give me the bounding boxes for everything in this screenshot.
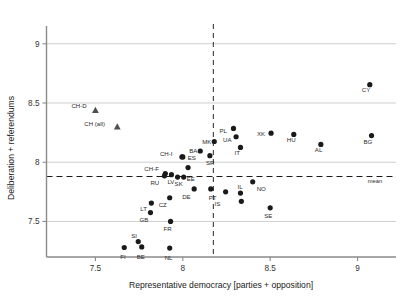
scatter-plot-figure: 7.588.597.588.59 CYBGALHUXKPLUAITMKBASRE… — [0, 0, 401, 302]
data-point-FI — [122, 245, 127, 250]
data-point-BE — [139, 244, 144, 249]
annotations-group: mean — [368, 178, 383, 184]
data-point-EE — [181, 174, 186, 179]
mean-label: mean — [368, 178, 383, 184]
point-label-BG: BG — [364, 138, 373, 145]
point-label-DE: DE — [182, 193, 190, 200]
point-label-SI: SI — [131, 232, 137, 239]
y-tick-label-7.5: 7.5 — [28, 217, 40, 226]
data-point-BA — [198, 148, 203, 153]
point-label-CH-D: CH-D — [71, 102, 87, 109]
x-axis-title: Representative democracy [parties + oppo… — [129, 280, 313, 290]
point-label-GB: GB — [139, 216, 148, 223]
data-point-CZ — [167, 195, 172, 200]
point-label-FI: FI — [120, 253, 126, 260]
point-label-SR: SR — [206, 159, 215, 166]
point-label-CY: CY — [362, 86, 370, 93]
data-point-NL — [167, 246, 172, 251]
point-label-LT: LT — [140, 205, 147, 212]
point-label-CZ: CZ — [159, 201, 167, 208]
x-tick-label-9: 9 — [355, 264, 360, 273]
data-point-UA — [234, 134, 239, 139]
point-label-IL: IL — [237, 183, 243, 190]
data-point-LT — [149, 201, 154, 206]
data-point-SI — [136, 239, 141, 244]
reference-lines-group — [47, 24, 397, 257]
data-point-SI2 — [185, 165, 190, 170]
point-label-PL: PL — [219, 127, 227, 134]
point-label-IT: IT — [234, 149, 240, 156]
y-tick-label-9: 9 — [35, 40, 40, 49]
data-point-MK — [212, 139, 217, 144]
point-label-MK: MK — [202, 138, 211, 145]
point-label-IS: IS — [215, 200, 221, 207]
data-point-DE — [192, 186, 197, 191]
point-label-NO: NO — [257, 185, 266, 192]
point-label-CH-F: CH-F — [144, 165, 159, 172]
y-tick-label-8: 8 — [35, 158, 40, 167]
point-label-SE: SE — [264, 212, 272, 219]
data-point-CH (all) — [114, 123, 121, 129]
data-point-NO — [250, 179, 255, 184]
point-label-FR: FR — [164, 225, 173, 232]
point-label-CH (all): CH (all) — [84, 120, 105, 127]
data-point-HR — [239, 199, 244, 204]
data-point-SE — [268, 205, 273, 210]
point-label-NL: NL — [165, 254, 173, 261]
data-point-FR — [168, 219, 173, 224]
point-label-UA: UA — [223, 136, 232, 143]
point-label-XK: XK — [257, 130, 265, 137]
data-point-SK — [175, 174, 180, 179]
x-tick-label-8.5: 8.5 — [264, 264, 276, 273]
data-point-PL — [231, 126, 236, 131]
data-point-IS — [223, 189, 228, 194]
data-point-SR — [207, 153, 212, 158]
data-point-IL — [238, 190, 243, 195]
data-point-CH-I — [179, 154, 184, 159]
point-labels-group: CYBGALHUXKPLUAITMKBASRESCH-ICH-FRULVSKEE… — [71, 86, 372, 261]
point-label-EE: EE — [187, 175, 195, 182]
x-tick-label-8: 8 — [181, 264, 186, 273]
data-point-PT — [208, 186, 213, 191]
point-label-SK: SK — [175, 180, 183, 187]
point-label-AL: AL — [315, 146, 323, 153]
chart-canvas: 7.588.597.588.59 CYBGALHUXKPLUAITMKBASRE… — [0, 0, 401, 302]
data-point-XK — [268, 131, 273, 136]
x-tick-label-7.5: 7.5 — [90, 264, 102, 273]
y-tick-label-8.5: 8.5 — [28, 99, 40, 108]
data-point-RU — [162, 173, 167, 178]
y-axis-title: Deliberation + referendums — [6, 96, 16, 200]
point-label-BE: BE — [137, 253, 145, 260]
data-point-CH-D — [92, 107, 99, 113]
point-label-ES: ES — [188, 154, 196, 161]
point-label-RU: RU — [150, 179, 159, 186]
data-points-group — [92, 82, 374, 251]
point-label-CH-I: CH-I — [160, 150, 173, 157]
point-label-HU: HU — [287, 136, 296, 143]
data-point-GB — [148, 210, 153, 215]
axes-group — [47, 26, 397, 257]
data-point-LV — [169, 172, 174, 177]
